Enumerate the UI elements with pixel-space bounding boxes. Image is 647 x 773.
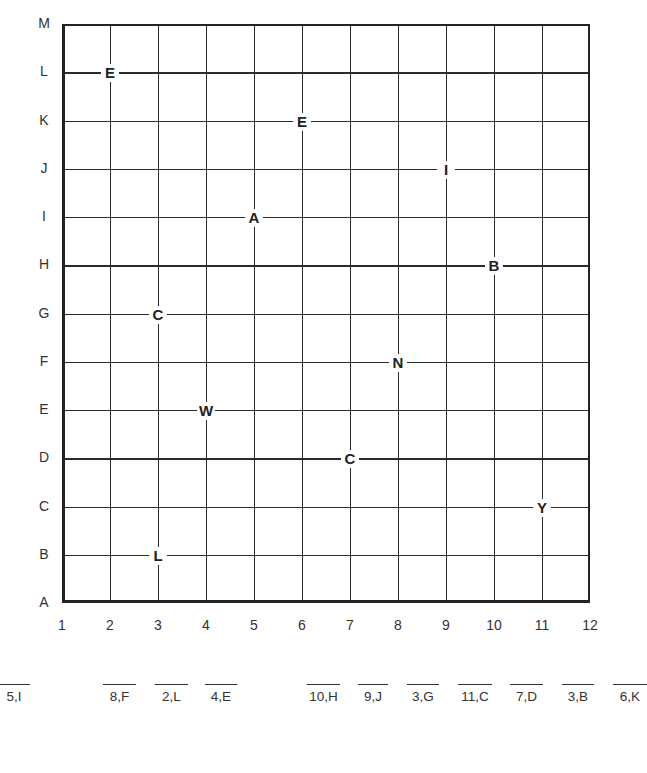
x-axis-label: 7 [335,617,365,633]
answer-blank[interactable]: 7,D [510,684,543,704]
answer-blank[interactable]: 3,B [562,684,594,704]
y-axis-label: K [36,112,52,128]
x-axis-label: 11 [527,617,557,633]
x-axis-label: 8 [383,617,413,633]
answer-blank[interactable]: 9,J [358,684,388,704]
blank-coordinate-label: 9,J [358,689,388,704]
x-axis-label: 5 [239,617,269,633]
plotted-letter: Y [533,499,551,517]
x-axis-label: 9 [431,617,461,633]
answer-blank[interactable]: 2,L [155,684,188,704]
plotted-letter: E [293,113,311,131]
blank-underline [358,684,388,685]
blank-underline [510,684,543,685]
y-axis-label: A [36,594,52,610]
blank-underline [0,684,30,685]
y-axis-label: H [36,256,52,272]
plotted-letter: N [389,354,407,372]
answer-blank[interactable]: 10,H [307,684,340,704]
x-axis-label: 6 [287,617,317,633]
blank-underline [103,684,136,685]
answer-blank[interactable]: 5,I [0,684,30,704]
plotted-letter: A [245,209,263,227]
x-axis-label: 4 [191,617,221,633]
blank-underline [307,684,340,685]
y-axis-label: J [36,160,52,176]
blank-underline [562,684,594,685]
blank-underline [155,684,188,685]
blank-coordinate-label: 6,K [613,689,647,704]
x-axis-label: 10 [479,617,509,633]
y-axis-label: I [36,208,52,224]
blank-coordinate-label: 4,E [205,689,237,704]
blank-coordinate-label: 2,L [155,689,188,704]
y-axis-label: B [36,546,52,562]
blank-coordinate-label: 3,B [562,689,594,704]
y-axis-label: M [36,15,52,31]
plotted-letter: I [437,161,455,179]
plotted-letter: L [149,547,167,565]
blank-coordinate-label: 3,G [407,689,439,704]
x-axis-label: 2 [95,617,125,633]
answer-blank[interactable]: 4,E [205,684,237,704]
y-axis-label: G [36,305,52,321]
y-axis-label: L [36,63,52,79]
blank-underline [407,684,439,685]
y-axis-label: C [36,498,52,514]
plotted-letter: C [149,306,167,324]
y-axis-label: E [36,401,52,417]
blank-coordinate-label: 10,H [307,689,340,704]
plotted-letter: W [197,402,215,420]
blank-coordinate-label: 5,I [0,689,30,704]
plotted-letter: C [341,450,359,468]
answer-blank[interactable]: 6,K [613,684,647,704]
grid-frame [62,24,590,603]
x-axis-label: 1 [47,617,77,633]
answer-blank[interactable]: 8,F [103,684,136,704]
answer-blank[interactable]: 3,G [407,684,439,704]
blank-coordinate-label: 8,F [103,689,136,704]
y-axis-label: D [36,449,52,465]
answer-blank[interactable]: 11,C [458,684,492,704]
y-axis-label: F [36,353,52,369]
blank-coordinate-label: 11,C [458,689,492,704]
blank-underline [205,684,237,685]
blank-underline [613,684,647,685]
x-axis-label: 12 [575,617,605,633]
blank-underline [458,684,492,685]
plotted-letter: E [101,64,119,82]
x-axis-label: 3 [143,617,173,633]
blank-coordinate-label: 7,D [510,689,543,704]
plotted-letter: B [485,257,503,275]
